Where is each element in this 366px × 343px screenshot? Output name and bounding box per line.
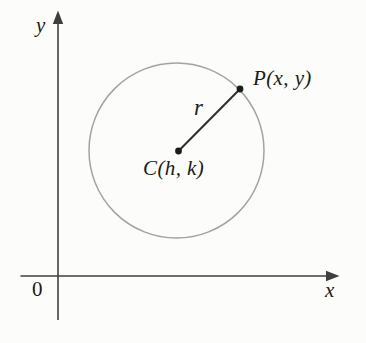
radius-label: r: [194, 96, 203, 119]
circle-diagram: y x 0 P(x, y) C(h, k) r: [0, 0, 366, 343]
axis-arrowheads: [53, 11, 340, 282]
center-point-dot: [175, 148, 182, 155]
center-c-label: C(h, k): [143, 158, 204, 179]
point-p-dot: [237, 86, 244, 93]
y-axis-arrowhead-icon: [53, 11, 63, 25]
radius-line: [179, 89, 241, 151]
y-axis-label: y: [36, 15, 46, 36]
origin-label: 0: [32, 279, 43, 300]
x-axis-label: x: [325, 280, 335, 301]
point-p-label: P(x, y): [253, 68, 312, 89]
